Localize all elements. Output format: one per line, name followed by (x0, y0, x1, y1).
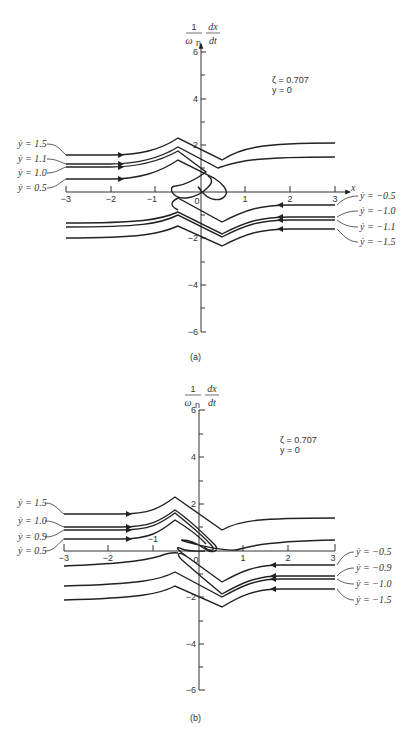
panel-b: 1 ω n dx dt 6 4 2 −2 −4 −6 (17, 383, 391, 723)
ylabel-dt: dt (209, 35, 217, 46)
label-a-ydot-m1.1: ẏ = −1.1 (359, 221, 395, 232)
ytick-m4: −4 (186, 639, 196, 649)
ylabel-numerator: 1 (190, 384, 195, 394)
ytick-m4: −4 (188, 280, 198, 290)
label-b-ydot-1.5: ẏ = 1.5 (17, 497, 47, 508)
ytick-4: 4 (191, 452, 196, 462)
panel-a: 1 ω n dx dt 6 4 2 −2 −4 −6 (17, 21, 395, 362)
label-a-ydot-m1.0: ẏ = −1.0 (359, 205, 395, 216)
xtick-1: 1 (242, 194, 247, 204)
y0-annotation: y = 0 (280, 445, 300, 455)
zeta-annotation: ζ = 0.707 (280, 435, 317, 445)
label-b-ydot-0.5: ẏ = 0.5 (17, 545, 47, 556)
ytick-m6: −6 (186, 685, 196, 695)
figure: 1 ω n dx dt 6 4 2 −2 −4 −6 (0, 0, 406, 732)
xtick-m3: −3 (61, 194, 71, 204)
label-b-ydot-m1.5: ẏ = −1.5 (355, 594, 391, 605)
ytick-4: 4 (193, 94, 198, 104)
trajectory-a-1.0 (66, 151, 212, 198)
label-a-ydot-m1.5: ẏ = −1.5 (359, 236, 395, 247)
xaxis-label: x (350, 182, 356, 193)
ytick-2: 2 (191, 499, 196, 509)
y0-annotation: y = 0 (272, 85, 292, 95)
xtick-m2: −2 (103, 553, 113, 563)
ylabel-dx: dx (207, 383, 217, 394)
ylabel-omega: ω (185, 35, 192, 46)
label-a-ydot-1.1: ẏ = 1.1 (17, 153, 47, 164)
label-a-ydot-m0.5: ẏ = −0.5 (359, 190, 395, 201)
xtick-0: 0 (194, 196, 199, 206)
label-a-ydot-1.5: ẏ = 1.5 (17, 138, 47, 149)
trajectory-b-0.9 (64, 513, 213, 550)
xtick-3: 3 (332, 194, 337, 204)
label-a-ydot-0.5: ẏ = 0.5 (17, 182, 47, 193)
ytick-2: 2 (193, 140, 198, 150)
ytick-6: 6 (193, 47, 198, 57)
ylabel-numerator: 1 (191, 22, 196, 32)
trajectory-b-lower-left (64, 553, 178, 566)
xtick-m1: −1 (147, 194, 157, 204)
label-b-ydot-m0.5: ẏ = −0.5 (355, 546, 391, 557)
panel-a-label: (a) (190, 352, 201, 362)
xtick-m3: −3 (59, 553, 69, 563)
label-b-ydot-0.9: ẏ = 0.9 (17, 531, 47, 542)
xtick-m2: −2 (106, 194, 116, 204)
label-b-ydot-m1.0: ẏ = −1.0 (355, 578, 391, 589)
label-b-ydot-1.0: ẏ = 1.0 (17, 515, 47, 526)
panel-b-label: (b) (190, 713, 201, 723)
label-b-ydot-m0.9: ẏ = −0.9 (355, 562, 391, 573)
ytick-m6: −6 (188, 327, 198, 337)
zeta-annotation: ζ = 0.707 (272, 75, 309, 85)
xtick-3: 3 (330, 553, 335, 563)
xtick-2: 2 (285, 553, 290, 563)
xtick-1: 1 (240, 553, 245, 563)
label-a-ydot-1.0: ẏ = 1.0 (17, 167, 47, 178)
xtick-2: 2 (287, 194, 292, 204)
ytick-6: 6 (191, 405, 196, 415)
ylabel-dt: dt (208, 397, 216, 408)
ylabel-dx: dx (208, 21, 218, 32)
